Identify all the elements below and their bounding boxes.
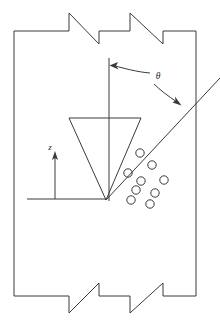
droplet-particle	[127, 196, 135, 204]
droplet-particle	[151, 189, 159, 197]
z-axis-label: z	[47, 142, 52, 152]
diagram-canvas: θ z	[0, 0, 220, 327]
theta-leader-arrowhead-left	[110, 62, 119, 70]
droplet-particle	[146, 200, 154, 208]
droplet-particle	[132, 186, 140, 194]
theta-leader-arc-right	[154, 84, 177, 102]
droplet-particle	[136, 149, 144, 157]
chamber-bottom-break-line	[14, 283, 196, 313]
theta-label: θ	[156, 71, 161, 81]
spray-cone-diagram: θ z	[0, 0, 220, 327]
theta-leader-arrowhead-right	[173, 97, 182, 106]
theta-leader-arc-left	[115, 66, 150, 73]
droplet-particle	[137, 177, 145, 185]
diagonal-ray	[106, 78, 220, 200]
chamber-top-break-line	[14, 13, 196, 44]
spray-cone-outline	[69, 118, 141, 200]
droplet-particle	[160, 176, 168, 184]
droplet-particle	[148, 161, 156, 169]
